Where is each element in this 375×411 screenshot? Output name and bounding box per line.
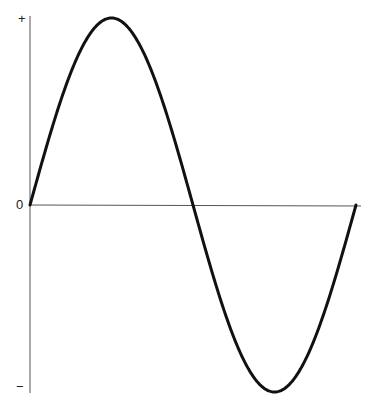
x-axis <box>30 205 361 206</box>
y-tick-zero: 0 <box>16 198 23 211</box>
sine-chart <box>0 0 375 411</box>
y-tick-minus: − <box>16 380 24 393</box>
y-tick-plus: + <box>18 12 26 25</box>
